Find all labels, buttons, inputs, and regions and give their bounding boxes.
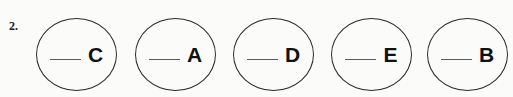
answer-letter-1: C: [88, 44, 103, 65]
answer-circle-2[interactable]: A: [135, 18, 216, 91]
circle-content-3: D: [233, 18, 314, 91]
answer-blank-line-4[interactable]: [345, 59, 376, 60]
answer-letter-5: B: [479, 44, 494, 65]
answer-letter-2: A: [187, 44, 202, 65]
answer-circle-3[interactable]: D: [233, 18, 314, 91]
answer-circle-4[interactable]: E: [331, 18, 412, 91]
circle-content-5: B: [427, 18, 508, 91]
worksheet-question-2: 2. C A D E: [0, 0, 513, 97]
answer-circle-1[interactable]: C: [36, 18, 117, 91]
circle-content-4: E: [331, 18, 412, 91]
answer-blank-line-5[interactable]: [441, 59, 472, 60]
circle-content-1: C: [36, 18, 117, 91]
circle-content-2: A: [135, 18, 216, 91]
answer-letter-3: D: [285, 44, 300, 65]
answer-blank-line-3[interactable]: [247, 59, 278, 60]
answer-blank-line-2[interactable]: [149, 59, 180, 60]
answer-circle-row: C A D E: [0, 0, 513, 97]
answer-letter-4: E: [383, 44, 397, 65]
answer-circle-5[interactable]: B: [427, 18, 508, 91]
answer-blank-line-1[interactable]: [50, 59, 81, 60]
